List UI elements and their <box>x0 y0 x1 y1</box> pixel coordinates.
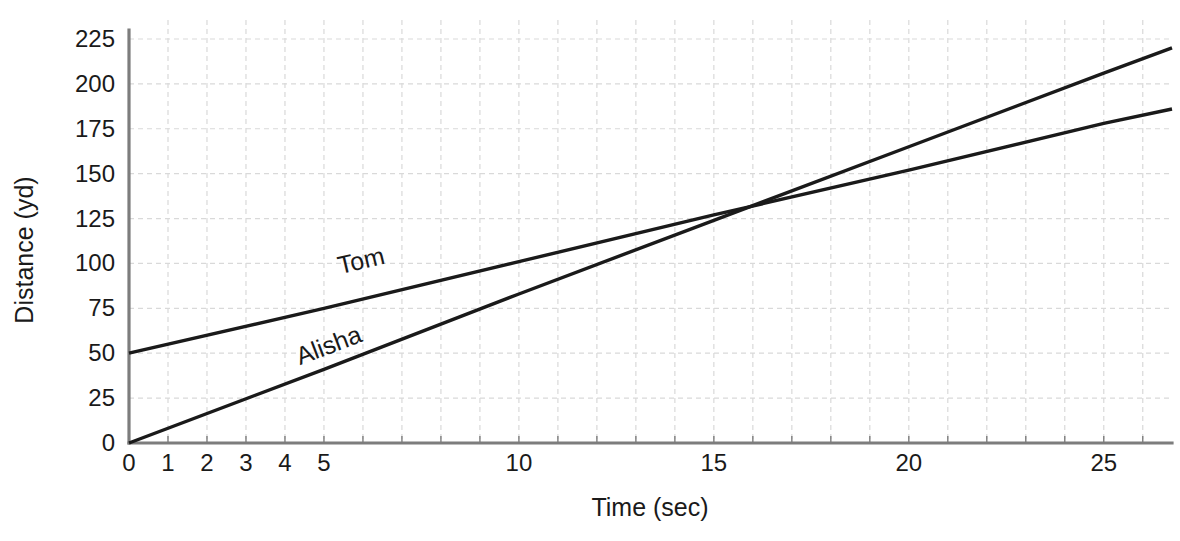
series-label-alisha: Alisha <box>292 320 366 370</box>
y-tick-label: 125 <box>75 205 115 232</box>
y-tick-label: 200 <box>75 70 115 97</box>
chart-canvas: 01234510152025 0255075100125150175200225… <box>0 0 1180 541</box>
x-axis-title: Time (sec) <box>591 493 708 521</box>
y-tick-label: 50 <box>88 339 115 366</box>
x-axis-tick-labels: 01234510152025 <box>122 449 1117 476</box>
line-chart: 01234510152025 0255075100125150175200225… <box>0 0 1180 541</box>
y-tick-label: 100 <box>75 249 115 276</box>
x-tick-label: 15 <box>701 449 728 476</box>
y-tick-label: 75 <box>88 294 115 321</box>
y-tick-label: 0 <box>102 429 115 456</box>
x-tick-label: 3 <box>239 449 252 476</box>
y-tick-label: 150 <box>75 160 115 187</box>
x-tick-label: 25 <box>1090 449 1117 476</box>
x-tick-label: 4 <box>278 449 291 476</box>
y-axis-tick-labels: 0255075100125150175200225 <box>75 25 115 456</box>
x-tick-label: 1 <box>161 449 174 476</box>
series-label-tom: Tom <box>335 241 387 279</box>
x-tick-label: 10 <box>506 449 533 476</box>
x-tick-label: 20 <box>895 449 922 476</box>
x-tick-label: 2 <box>200 449 213 476</box>
y-tick-label: 175 <box>75 115 115 142</box>
x-tick-label: 0 <box>122 449 135 476</box>
y-tick-label: 25 <box>88 384 115 411</box>
y-tick-label: 225 <box>75 25 115 52</box>
y-axis-title: Distance (yd) <box>10 176 38 323</box>
x-tick-label: 5 <box>317 449 330 476</box>
